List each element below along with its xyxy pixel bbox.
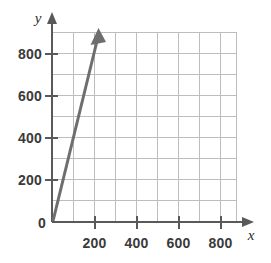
- y-tick-label-200: 200: [18, 172, 42, 188]
- y-axis-arrowhead: [47, 12, 57, 24]
- x-axis-label: x: [247, 227, 255, 243]
- chart-canvas: 800 600 400 200 0 200 400 600 800 y x: [0, 0, 271, 263]
- x-tick-label-400: 400: [125, 235, 149, 251]
- x-tick-label-600: 600: [167, 235, 191, 251]
- origin-label-zero: 0: [38, 215, 46, 231]
- plot-area-background: [52, 32, 237, 222]
- y-tick-labels: 800 600 400 200: [18, 46, 42, 188]
- y-axis-label: y: [33, 10, 42, 26]
- y-tick-label-800: 800: [18, 46, 42, 62]
- x-tick-label-800: 800: [209, 235, 233, 251]
- chart-figure: 800 600 400 200 0 200 400 600 800 y x: [0, 0, 271, 263]
- y-tick-label-400: 400: [18, 130, 42, 146]
- x-axis-arrowhead: [242, 217, 254, 227]
- y-tick-label-600: 600: [18, 88, 42, 104]
- x-tick-labels: 200 400 600 800: [83, 235, 233, 251]
- x-tick-label-200: 200: [83, 235, 107, 251]
